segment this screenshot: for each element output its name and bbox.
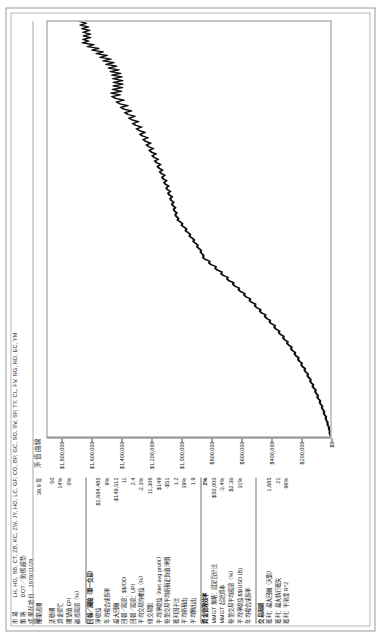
stat-label: 回報／風險：UPI	[130, 580, 135, 623]
stat-value: -2.3%	[138, 477, 143, 492]
stat-label: 活動期	[49, 605, 54, 623]
stat-value: 2.4	[130, 477, 135, 485]
stat-value: 9%	[104, 477, 109, 485]
stat-label: 年均複合成長率	[104, 584, 109, 623]
statistics-panel: 成果週期 39.9 年 活動期 50 資金單位 14% 期望值 EPI 0% 破…	[36, 477, 293, 623]
stat-group-activity: 活動期 50 資金單位 14% 期望值 EPI 0% 破產風險（%）	[49, 477, 83, 623]
stat-label: 交易周期	[258, 600, 263, 623]
stat-value: -$149,512	[113, 477, 118, 502]
spacer	[45, 477, 49, 623]
y-axis-tick	[61, 438, 62, 442]
y-axis-tick	[211, 438, 212, 442]
stat-label: 最大回撤	[113, 600, 118, 623]
stat-label: 平均交易的權益（%）	[138, 569, 143, 623]
stat-label: 平均勝出出	[190, 595, 195, 624]
stat-value: 2%	[202, 477, 207, 485]
y-axis: $0$200,000$400,000$600,000$800,000$1,000…	[46, 437, 331, 467]
stat-row: 總交易數 11,306	[147, 477, 156, 623]
stat-value: 21	[275, 477, 280, 483]
y-axis-tick	[151, 438, 152, 442]
chart-title: 淨值曲線	[32, 437, 41, 467]
stat-label: 獲利：平滑度 R^2	[283, 578, 288, 623]
stat-value: $1,684,485	[95, 477, 100, 505]
strategy-value: DOT／動態趨勢	[20, 23, 26, 597]
y-axis-tick-label: $1,200,000	[148, 441, 154, 469]
stat-row: 每筆交易平均虧損正負值淨價 -$51	[164, 477, 173, 623]
stat-label: 期望值 EPI	[66, 594, 71, 623]
stat-row: 回報／風險：$$/DD 11	[121, 477, 130, 623]
stat-value: 11,306	[147, 477, 152, 494]
stat-label: 獲利：最大回撤（天數）	[266, 564, 271, 623]
y-axis-tick-label: $400,000	[268, 441, 274, 464]
stat-value: 50	[49, 477, 54, 483]
stat-value: 1.9	[190, 477, 195, 485]
stat-row: 資金單位 14%	[57, 477, 66, 623]
strategy-label: 策略	[20, 597, 26, 623]
stat-label: 獲利：最大執行獲失	[275, 574, 280, 623]
stat-label: 資金單位	[57, 600, 62, 623]
y-axis-tick	[241, 438, 242, 442]
y-axis-tick-label: $1,800,000	[58, 441, 64, 469]
stat-section-header-money-management: 資金管理效率 2%	[200, 477, 211, 623]
equity-curve-plot	[46, 20, 331, 437]
stat-value: -$51	[164, 477, 169, 488]
y-axis-tick-label: $600,000	[238, 441, 244, 464]
stat-row: 獲利：最大回撤（天數） 1,685	[266, 477, 275, 623]
stat-value: 31%	[237, 477, 242, 488]
stat-label: 平均淨收益 $$/USD (B)	[237, 564, 242, 623]
stat-value: -3.4%	[219, 477, 224, 492]
stat-label: MMGT 策略：固定百分比	[211, 561, 216, 623]
y-axis-tick	[91, 438, 92, 442]
y-axis-tick-label: $200,000	[298, 441, 304, 464]
stat-value: $50,000	[211, 477, 216, 497]
equity-curve-panel: 淨值曲線 $0$200,000$400,000$600,000$800,000$…	[30, 18, 365, 467]
equity-curve-svg	[47, 21, 330, 436]
stat-label: 每筆交易平均風險（%）	[228, 564, 233, 623]
y-axis-tick	[271, 438, 272, 442]
stat-row: 年均複合成長率	[245, 477, 254, 623]
stat-row: 破產風險（%）	[74, 477, 83, 623]
stat-row: 年均複合成長率 9%	[104, 477, 113, 623]
stat-group-trade-cycle: 獲利：最大回撤（天數） 1,685 獲利：最大執行獲失 21 獲利：平滑度 R^…	[266, 477, 292, 623]
stat-label: 成果週期	[36, 600, 41, 623]
stat-value: 1.2	[173, 477, 178, 485]
y-axis-tick-label: $1,600,000	[88, 441, 94, 469]
stat-label: 平均淨收益（Net avg profit）	[156, 551, 161, 623]
stat-value: 0%	[66, 477, 71, 485]
stat-label: 破產風險（%）	[74, 585, 79, 624]
stat-label: 獲利因子比	[173, 595, 178, 624]
stat-label: 回報／風險（單一交易）	[87, 564, 92, 623]
y-axis-tick	[331, 438, 332, 442]
stat-label: 每筆交易平均虧損正負值淨價	[164, 554, 169, 623]
y-axis-tick-label: $1,400,000	[118, 441, 124, 469]
stat-label: 年均複合成長率	[245, 584, 250, 623]
stat-label: 淨收益	[95, 605, 100, 623]
rotated-page-wrapper: 市場 LH, HG, SB, CT, ZB, KC, ZW, JY, HO, L…	[0, 0, 381, 639]
stat-row: 獲利：平滑度 R^2 96%	[283, 477, 292, 623]
stat-row-duration: 成果週期 39.9 年	[36, 477, 45, 623]
y-axis-tick	[121, 438, 122, 442]
stat-section-header-return-risk: 回報／風險（單一交易）	[85, 477, 96, 623]
stat-row: 每筆交易平均風險（%） $2.3b	[228, 477, 237, 623]
market-label: 市場	[12, 597, 18, 623]
stat-label: 總交易數	[147, 600, 152, 623]
stat-label: 平均虧損出	[181, 595, 186, 624]
stat-label: MMGT 起始資本	[219, 581, 224, 623]
y-axis-tick-label: $800,000	[208, 441, 214, 464]
stat-value: 39%	[181, 477, 186, 488]
stat-group-return-risk: 淨收益 $1,684,485 年均複合成長率 9% 最大回撤 -$149,512…	[95, 477, 198, 623]
header-row-strategy: 策略 DOT／動態趨勢	[20, 23, 26, 623]
stat-row: 活動期 50	[49, 477, 58, 623]
header-row-market: 市場 LH, HG, SB, CT, ZB, KC, ZW, JY, HO, L…	[12, 23, 18, 623]
y-axis-tick	[301, 438, 302, 442]
report-page: 市場 LH, HG, SB, CT, ZB, KC, ZW, JY, HO, L…	[0, 0, 381, 639]
y-axis-line	[46, 437, 331, 438]
stat-row: 平均勝出出 1.9	[190, 477, 199, 623]
stat-value: 1,685	[266, 477, 271, 491]
stat-label: 回報／風險：$$/DD	[121, 574, 126, 623]
equity-curve-line	[79, 21, 330, 436]
stat-group-money-management: MMGT 策略：固定百分比 $50,000 MMGT 起始資本 -3.4% 每筆…	[211, 477, 254, 623]
stat-value: 96%	[283, 477, 288, 488]
y-axis-tick-label: $1,000,000	[178, 441, 184, 469]
stat-value: 11	[121, 477, 126, 483]
